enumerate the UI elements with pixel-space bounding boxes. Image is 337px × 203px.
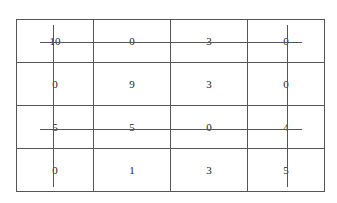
number-grid: 10 0 3 0 0 9 3 0 5 5 0 4 0 1 3 5	[16, 19, 325, 192]
grid-row: 0 9 3 0	[17, 63, 325, 106]
grid-cell: 10	[17, 20, 94, 63]
strike-line-col-1	[53, 25, 54, 187]
grid-cell: 5	[248, 149, 325, 192]
grid-cell: 0	[17, 149, 94, 192]
strike-line-row-3	[40, 129, 302, 130]
grid-cell: 1	[94, 149, 171, 192]
grid-cell: 0	[94, 20, 171, 63]
grid-row: 10 0 3 0	[17, 20, 325, 63]
strike-line-row-1	[40, 42, 302, 43]
grid-cell: 5	[17, 106, 94, 149]
grid-row: 5 5 0 4	[17, 106, 325, 149]
strike-line-col-4	[287, 25, 288, 187]
grid-cell: 3	[171, 20, 248, 63]
grid-cell: 4	[248, 106, 325, 149]
grid-cell: 0	[171, 106, 248, 149]
grid-cell: 0	[17, 63, 94, 106]
grid-cell: 0	[248, 20, 325, 63]
grid-row: 0 1 3 5	[17, 149, 325, 192]
grid-cell: 0	[248, 63, 325, 106]
grid-cell: 9	[94, 63, 171, 106]
grid-cell: 3	[171, 149, 248, 192]
grid-cell: 3	[171, 63, 248, 106]
grid-cell: 5	[94, 106, 171, 149]
